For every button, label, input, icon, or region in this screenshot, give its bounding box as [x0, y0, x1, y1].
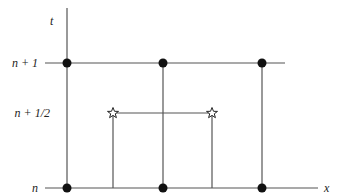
- space-label-j: j: [159, 195, 165, 196]
- grid-point-icon: [258, 59, 267, 68]
- grid-point-icon: [159, 59, 168, 68]
- time-label-n: n: [32, 181, 38, 195]
- space-label-j-plus-1: j + 1: [248, 195, 273, 196]
- time-label-n-plus-1: n + 1: [12, 56, 38, 70]
- grid-point-icon: [258, 184, 267, 193]
- space-label-j-minus-1: j − 1: [53, 195, 78, 196]
- t-axis-label: t: [50, 14, 54, 28]
- staggered-grid-diagram: t x n + 1 n + 1/2 n j − 1 j − 1/2 j j + …: [0, 0, 345, 196]
- grid-point-icon: [63, 184, 72, 193]
- grid-point-icon: [63, 59, 72, 68]
- x-axis-label: x: [323, 181, 330, 195]
- space-label-j-minus-half: j − 1/2: [95, 195, 130, 196]
- grid-point-icon: [159, 184, 168, 193]
- space-label-j-plus-half: j + 1/2: [194, 195, 229, 196]
- time-label-n-plus-half: n + 1/2: [15, 106, 50, 120]
